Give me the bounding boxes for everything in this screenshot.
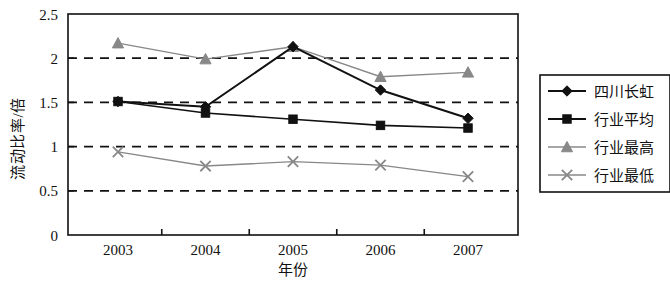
x-tick-label: 2005 <box>278 242 308 258</box>
data-point-marker <box>463 113 473 123</box>
legend-label: 四川长虹 <box>594 84 654 100</box>
line-chart-plot: 00.511.522.5 20032004200520062007 四川长虹行业… <box>0 0 670 283</box>
y-tick-label: 1.5 <box>39 95 58 111</box>
legend-label: 行业最高 <box>594 140 654 156</box>
x-tick-label: 2003 <box>103 242 133 258</box>
y-tick-label: 1 <box>51 139 59 155</box>
legend-label: 行业平均 <box>594 112 654 128</box>
legend-marker <box>563 115 571 123</box>
data-point-marker <box>375 85 385 95</box>
x-tick-label: 2006 <box>366 242 397 258</box>
data-point-marker <box>112 38 123 48</box>
x-tick-label: 2004 <box>191 242 222 258</box>
gridlines <box>68 58 518 191</box>
chart-legend: 四川长虹行业平均行业最高行业最低 <box>540 75 670 192</box>
data-point-marker <box>289 115 297 123</box>
y-tick-label: 2.5 <box>39 7 58 23</box>
y-tick-label: 2 <box>51 51 59 67</box>
data-point-marker <box>376 121 384 129</box>
data-series <box>112 38 473 182</box>
legend-label: 行业最低 <box>594 168 654 184</box>
data-point-marker <box>464 124 472 132</box>
y-tick-label: 0.5 <box>39 183 58 199</box>
y-tick-label: 0 <box>51 228 59 244</box>
series-line <box>118 152 468 177</box>
series-3 <box>113 147 473 182</box>
x-axis-ticks: 20032004200520062007 <box>103 229 484 258</box>
series-0 <box>113 42 473 124</box>
x-tick-label: 2007 <box>453 242 484 258</box>
chart-figure: 流动比率/倍 年份 00.511.522.5 20032004200520062… <box>0 0 670 283</box>
